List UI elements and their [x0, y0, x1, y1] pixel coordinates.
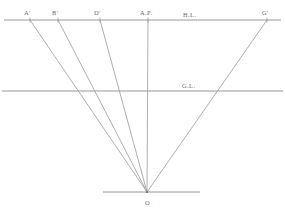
label-d-prime: D': [94, 10, 101, 16]
label-g-prime: G': [262, 10, 269, 16]
ray-g-prime: [147, 20, 267, 192]
ray-b-prime: [58, 20, 147, 192]
station-base-group: [103, 191, 200, 193]
label-a-prime: A': [24, 10, 31, 16]
label-ground-line: G.L.: [182, 83, 196, 89]
station-point-dot: [146, 191, 148, 193]
label-station-point: O: [145, 200, 150, 206]
diagram-vector-surface: [0, 0, 285, 214]
label-axis-point: A.P.: [140, 10, 152, 16]
ray-lines-group: [30, 20, 267, 192]
ray-axis-point: [147, 20, 148, 192]
label-b-prime: B': [52, 10, 58, 16]
label-horizon-line: H.L.: [183, 12, 197, 18]
perspective-diagram-canvas: A' B' D' A.P. G' H.L. G.L. O: [0, 0, 285, 214]
ray-a-prime: [30, 20, 147, 192]
ray-d-prime: [100, 20, 147, 192]
